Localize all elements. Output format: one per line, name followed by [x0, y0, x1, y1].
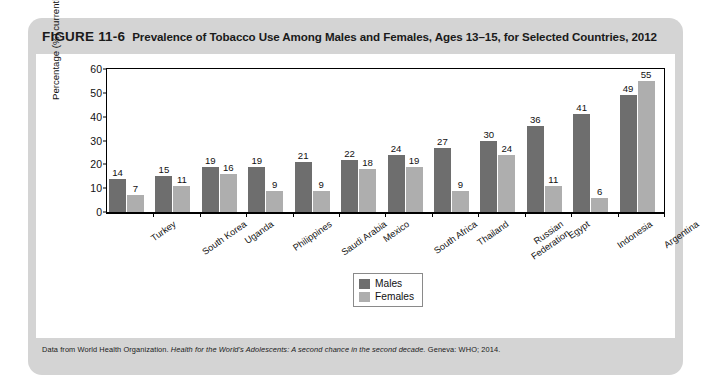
bar-males: 21 — [295, 162, 312, 212]
bar-value-label: 9 — [272, 179, 277, 190]
bar-group: 3611Egypt — [525, 69, 571, 212]
bar-value-label: 55 — [641, 69, 652, 80]
y-axis-tick-label: 10 — [90, 182, 102, 194]
bar-group: 2419South Africa — [386, 69, 432, 212]
y-axis-title: Percentage (%) currently using any form … — [50, 0, 62, 100]
bar-value-label: 24 — [391, 143, 402, 154]
bar-males: 22 — [341, 160, 358, 212]
bar-group: 1511South Korea — [153, 69, 199, 212]
x-axis-tick-mark — [200, 212, 201, 217]
x-axis-tick-mark — [246, 212, 247, 217]
bar-females: 55 — [638, 81, 655, 212]
x-axis-tick-label: RussianFederation — [523, 219, 572, 262]
x-axis-tick-mark — [618, 212, 619, 217]
figure-caption: Prevalence of Tobacco Use Among Males an… — [132, 30, 657, 43]
bar-value-label: 30 — [483, 129, 494, 140]
bar-males: 24 — [388, 155, 405, 212]
bar-females: 9 — [452, 191, 469, 212]
bar-males: 36 — [527, 126, 544, 212]
bar-value-label: 18 — [362, 157, 373, 168]
bar-females: 18 — [359, 169, 376, 212]
bar-value-label: 16 — [223, 162, 234, 173]
bar-value-label: 11 — [177, 174, 187, 185]
bar-value-label: 24 — [501, 143, 512, 154]
figure-header: FIGURE 11-6 Prevalence of Tobacco Use Am… — [28, 18, 683, 54]
x-axis-tick-label: Argentina — [662, 219, 701, 251]
chart-legend: MalesFemales — [353, 273, 423, 307]
bar-value-label: 14 — [112, 167, 123, 178]
bar-group: 219Saudi Arabia — [293, 69, 339, 212]
bar-females: 11 — [545, 186, 562, 212]
x-axis-tick-mark — [525, 212, 526, 217]
bar-chart: Percentage (%) currently using any form … — [36, 54, 675, 338]
x-axis-tick-mark — [571, 212, 572, 217]
x-axis-tick-label: Egypt — [566, 219, 592, 241]
bar-males: 30 — [480, 141, 497, 213]
bar-value-label: 19 — [205, 155, 216, 166]
bar-value-label: 19 — [251, 155, 262, 166]
bar-value-label: 15 — [159, 164, 170, 175]
y-axis-tick-label: 30 — [90, 135, 102, 147]
legend-item: Females — [359, 290, 414, 303]
x-axis-tick-label: Thailand — [475, 219, 510, 248]
y-axis-tick-label: 20 — [90, 158, 102, 170]
bar-group: 1916Uganda — [200, 69, 246, 212]
x-axis-tick-mark — [339, 212, 340, 217]
bar-group: 279Thailand — [432, 69, 478, 212]
bar-females: 7 — [127, 195, 144, 212]
bar-value-label: 41 — [576, 102, 587, 113]
y-axis-tick-label: 40 — [90, 111, 102, 123]
legend-label: Females — [375, 291, 414, 302]
x-axis-tick-label: Philippines — [292, 219, 335, 254]
plot-area: 0102030405060147Turkey1511South Korea191… — [106, 68, 665, 214]
bar-group: 416Indonesia — [571, 69, 617, 212]
legend-item: Males — [359, 277, 414, 290]
source-suffix: Geneva: WHO; 2014. — [426, 345, 501, 354]
bar-males: 27 — [434, 148, 451, 212]
bar-value-label: 9 — [318, 179, 323, 190]
x-axis-tick-label: South Africa — [432, 219, 479, 257]
legend-swatch-males — [359, 279, 370, 289]
bar-group: 4955Argentina — [618, 69, 664, 212]
bar-value-label: 21 — [298, 150, 309, 161]
source-title: Health for the World's Adolescents: A se… — [171, 345, 426, 354]
bar-males: 19 — [248, 167, 265, 212]
x-axis-tick-label: Indonesia — [616, 219, 655, 251]
bar-group: 199Philippines — [246, 69, 292, 212]
bar-value-label: 27 — [437, 136, 448, 147]
bar-value-label: 9 — [458, 179, 463, 190]
x-axis-tick-mark — [385, 212, 386, 217]
bar-males: 19 — [202, 167, 219, 212]
bar-females: 9 — [266, 191, 283, 212]
x-axis-tick-label: Saudi Arabia — [339, 219, 388, 258]
source-prefix: Data from World Health Organization. — [42, 345, 171, 354]
bar-value-label: 7 — [133, 183, 138, 194]
figure-source-note: Data from World Health Organization. Hea… — [28, 338, 683, 375]
y-axis-tick-label: 60 — [90, 63, 102, 75]
bar-value-label: 22 — [344, 148, 355, 159]
x-axis-tick-label: South Korea — [200, 219, 248, 257]
bar-males: 41 — [573, 114, 590, 212]
bar-females: 19 — [406, 167, 423, 212]
bar-value-label: 6 — [597, 186, 602, 197]
y-axis-tick-label: 50 — [90, 87, 102, 99]
x-axis-tick-mark — [664, 212, 665, 217]
bar-females: 9 — [313, 191, 330, 212]
x-axis-tick-mark — [432, 212, 433, 217]
x-axis-tick-mark — [153, 212, 154, 217]
bar-group: 3024RussianFederation — [478, 69, 524, 212]
bar-females: 11 — [173, 186, 190, 212]
bar-value-label: 19 — [409, 155, 420, 166]
bar-females: 6 — [591, 198, 608, 212]
bar-males: 15 — [155, 176, 172, 212]
bar-value-label: 36 — [530, 114, 541, 125]
x-axis-tick-mark — [293, 212, 294, 217]
bar-value-label: 49 — [623, 83, 634, 94]
bar-group: 147Turkey — [107, 69, 153, 212]
bar-group: 2218Mexico — [339, 69, 385, 212]
y-axis-tick-label: 0 — [96, 206, 102, 218]
bar-males: 49 — [620, 95, 637, 212]
bar-value-label: 11 — [548, 174, 558, 185]
figure-card: FIGURE 11-6 Prevalence of Tobacco Use Am… — [28, 18, 683, 375]
x-axis-tick-label: Turkey — [149, 219, 178, 244]
